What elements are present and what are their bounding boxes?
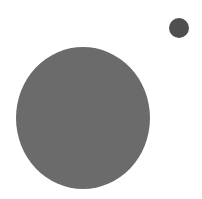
large-circle: [16, 47, 150, 189]
small-circle: [169, 18, 189, 38]
